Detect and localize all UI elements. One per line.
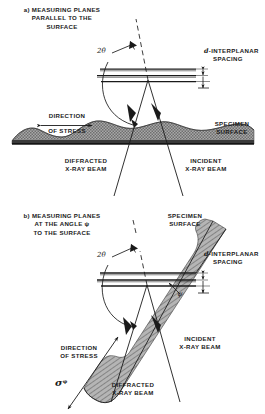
panel-a-d-spacing-line-1: -INTERPLANAR: [209, 47, 259, 54]
panel-b-incident-beam-label: INCIDENT X-RAY BEAM: [170, 335, 230, 351]
panel-b-d-spacing-line-2: SPACING: [204, 258, 243, 265]
panel-b-caption-line-2: AT THE ANGLE ψ: [35, 220, 90, 227]
panel-b-caption-line-3: TO THE SURFACE: [33, 229, 90, 236]
panel-b-incident-line-2: X-RAY BEAM: [179, 343, 220, 350]
panel-a-surface-line-2: SURFACE: [216, 128, 248, 135]
figure-root: a) MEASURING PLANES PARALLEL TO THE SURF…: [0, 0, 265, 414]
panel-a-surface-line-1: SPECIMEN: [215, 120, 250, 127]
panel-a-stress-label: DIRECTION: [33, 112, 101, 120]
panel-b-two-theta-label: 2θ: [97, 251, 106, 259]
panel-b-specimen-surface-label: SPECIMEN SURFACE: [158, 212, 212, 228]
panel-b-stress-line-1: DIRECTION: [61, 344, 98, 351]
panel-a-incident-line-1: INCIDENT: [190, 157, 222, 164]
panel-b-diffracted-line-1: DIFFRACTED: [112, 381, 154, 388]
panel-a-diffracted-line-1: DIFFRACTED: [65, 157, 107, 164]
panel-b-incident-line-1: INCIDENT: [184, 335, 216, 342]
panel-a-diffracted-beam-label: DIFFRACTED X-RAY BEAM: [56, 157, 116, 173]
panel-a-caption-line-3: SURFACE: [46, 23, 77, 30]
panel-b-d-spacing-label: d-INTERPLANAR SPACING: [204, 250, 264, 266]
panel-b-surface-line-2: SURFACE: [169, 220, 201, 227]
d-spacing-dimension-b: [196, 273, 210, 293]
panel-a-caption: a) MEASURING PLANES PARALLEL TO THE SURF…: [14, 6, 110, 31]
panel-a-specimen-surface-label: SPECIMEN SURFACE: [203, 120, 261, 136]
panel-a-incident-line-2: X-RAY BEAM: [185, 165, 226, 172]
panel-a-stress-line-2: OF STRESS: [48, 127, 86, 134]
panel-a-d-spacing-line-2: SPACING: [204, 55, 243, 62]
panel-b-surface-line-1: SPECIMEN: [168, 212, 203, 219]
specimen-surface-body-b: [84, 219, 226, 403]
panel-a-caption-line-2: PARALLEL TO THE: [32, 14, 92, 21]
panel-b: b) MEASURING PLANES AT THE ANGLE ψ TO TH…: [0, 207, 265, 414]
panel-b-stress-symbol: σφ: [55, 377, 68, 388]
panel-a-diffracted-line-2: X-RAY BEAM: [65, 165, 106, 172]
panel-b-sigma-superscript: φ: [63, 378, 68, 384]
panel-b-caption-line-1: b) MEASURING PLANES: [24, 212, 101, 219]
panel-a-incident-beam-label: INCIDENT X-RAY BEAM: [176, 157, 236, 173]
panel-a-stress-line-1: DIRECTION: [49, 112, 86, 119]
panel-a-stress-label-2: OF STRESS: [33, 127, 101, 135]
panel-b-psi-label: ψ: [177, 290, 183, 298]
panel-a-d-spacing-label: d-INTERPLANAR SPACING: [204, 47, 264, 63]
panel-a: a) MEASURING PLANES PARALLEL TO THE SURF…: [0, 0, 265, 207]
panel-b-diffracted-line-2: X-RAY BEAM: [112, 389, 153, 396]
panel-b-stress-label: DIRECTION OF STRESS: [49, 344, 109, 360]
panel-a-caption-line-1: a) MEASURING PLANES: [24, 6, 100, 13]
panel-b-caption: b) MEASURING PLANES AT THE ANGLE ψ TO TH…: [14, 212, 110, 237]
two-theta-arc-b: [102, 244, 138, 330]
panel-b-stress-line-2: OF STRESS: [60, 352, 98, 359]
panel-a-two-theta-label: 2θ: [97, 47, 106, 55]
panel-b-sigma-symbol: σ: [55, 377, 63, 388]
d-spacing-dimension-a: [196, 69, 210, 88]
panel-b-diffracted-beam-label: DIFFRACTED X-RAY BEAM: [103, 381, 163, 397]
panel-b-d-spacing-line-1: -INTERPLANAR: [209, 250, 259, 257]
